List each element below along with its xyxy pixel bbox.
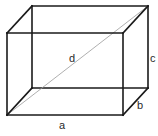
label-d-diagonal: d: [69, 52, 75, 64]
depth-edge-top-right: [123, 6, 148, 33]
label-b-width: b: [137, 99, 143, 111]
depth-edge-top-left: [7, 6, 32, 33]
depth-edge-bottom-right: [123, 88, 148, 115]
depth-edge-bottom-left: [7, 88, 32, 115]
space-diagonal: [7, 6, 148, 115]
rectangular-prism-diagram: a b c d: [0, 0, 158, 136]
label-a-length: a: [59, 119, 66, 131]
label-c-height: c: [150, 52, 156, 64]
